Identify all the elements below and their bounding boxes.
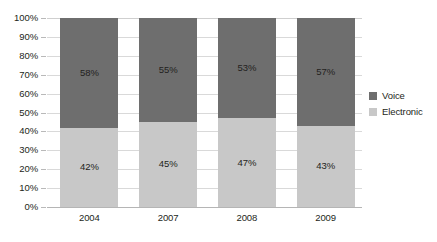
x-tick-label: 2007 [129,212,208,224]
y-tick-label: 30% [19,145,38,155]
bar-value-label: 55% [159,65,178,75]
bar-group[interactable]: 45%55% [139,18,197,207]
bar-group[interactable]: 47%53% [218,18,276,207]
bar-group[interactable]: 42%58% [60,18,118,207]
y-tick-label: 0% [24,202,38,212]
bar-segment-voice[interactable]: 53% [218,18,276,118]
stacked-bar-chart: 0%10%20%30%40%50%60%70%80%90%100% 42%58%… [0,0,437,242]
bar-value-label: 53% [238,63,257,73]
y-tick-mark [41,113,46,114]
y-tick-label: 70% [19,70,38,80]
y-tick-label: 10% [19,183,38,193]
bar-segment-electronic[interactable]: 42% [60,128,118,207]
bar-segment-voice[interactable]: 57% [297,18,355,126]
bar-value-label: 43% [316,161,335,171]
legend-item-voice[interactable]: Voice [369,88,423,104]
x-axis: 2004200720082009 [47,212,362,230]
bar-value-label: 57% [316,67,335,77]
plot-area: 42%58%45%55%47%53%43%57% [47,18,362,207]
legend-label-electronic: Electronic [382,107,423,117]
y-tick-label: 60% [19,89,38,99]
y-tick-label: 50% [19,108,38,118]
bar-group[interactable]: 43%57% [297,18,355,207]
bar-segment-voice[interactable]: 58% [60,18,118,128]
x-tick-label: 2008 [208,212,287,224]
bar-segment-electronic[interactable]: 45% [139,122,197,207]
bar-segment-electronic[interactable]: 47% [218,118,276,207]
bar-value-label: 42% [80,162,99,172]
x-tick-label: 2004 [50,212,129,224]
bar-series-container: 42%58%45%55%47%53%43%57% [47,18,362,207]
y-axis: 0%10%20%30%40%50%60%70%80%90%100% [0,0,44,242]
bar-segment-electronic[interactable]: 43% [297,126,355,207]
bar-value-label: 58% [80,68,99,78]
gridline [47,207,362,208]
y-tick-label: 90% [19,32,38,42]
y-tick-label: 80% [19,51,38,61]
y-tick-label: 100% [14,13,38,23]
legend-item-electronic[interactable]: Electronic [369,104,423,120]
y-tick-mark [41,94,46,95]
y-tick-label: 20% [19,164,38,174]
legend-label-voice: Voice [382,91,405,101]
y-tick-mark [41,56,46,57]
y-tick-mark [41,188,46,189]
y-tick-mark [41,150,46,151]
bar-value-label: 45% [159,159,178,169]
y-tick-mark [41,37,46,38]
y-tick-mark [41,75,46,76]
bar-value-label: 47% [238,158,257,168]
y-tick-mark [41,131,46,132]
x-tick-label: 2009 [286,212,365,224]
y-tick-mark [41,207,46,208]
chart-legend: Voice Electronic [369,88,423,120]
y-tick-label: 40% [19,126,38,136]
y-tick-mark [41,169,46,170]
voice-swatch-icon [369,92,377,100]
bar-segment-voice[interactable]: 55% [139,18,197,122]
y-tick-mark [41,18,46,19]
electronic-swatch-icon [369,108,377,116]
